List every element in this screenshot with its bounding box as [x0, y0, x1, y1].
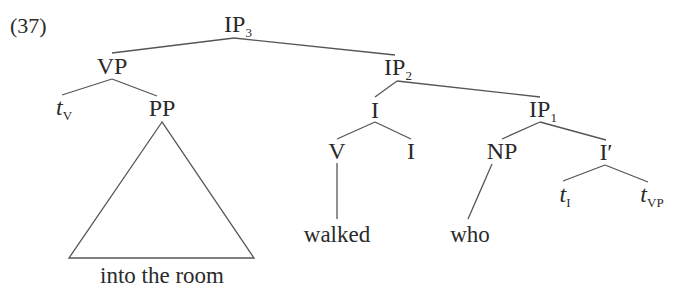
node-np: NP	[487, 139, 518, 163]
node-v: V	[328, 139, 345, 163]
node-ip3: IP3	[224, 12, 252, 39]
word-who: who	[450, 223, 490, 246]
node-ip2: IP2	[384, 55, 412, 82]
node-trace-i: tI	[559, 182, 570, 209]
node-trace-v: tV	[56, 95, 72, 122]
node-vp: VP	[97, 54, 128, 78]
node-trace-vp: tVP	[640, 182, 663, 209]
word-walked: walked	[304, 223, 370, 246]
node-i-bar: I′	[599, 140, 612, 164]
example-number: (37)	[10, 13, 47, 39]
pp-text: into the room	[100, 264, 224, 287]
node-ip1: IP1	[529, 97, 557, 124]
node-pp: PP	[149, 96, 176, 120]
node-i-upper: I	[371, 98, 379, 122]
node-i-lower: I	[407, 139, 415, 163]
